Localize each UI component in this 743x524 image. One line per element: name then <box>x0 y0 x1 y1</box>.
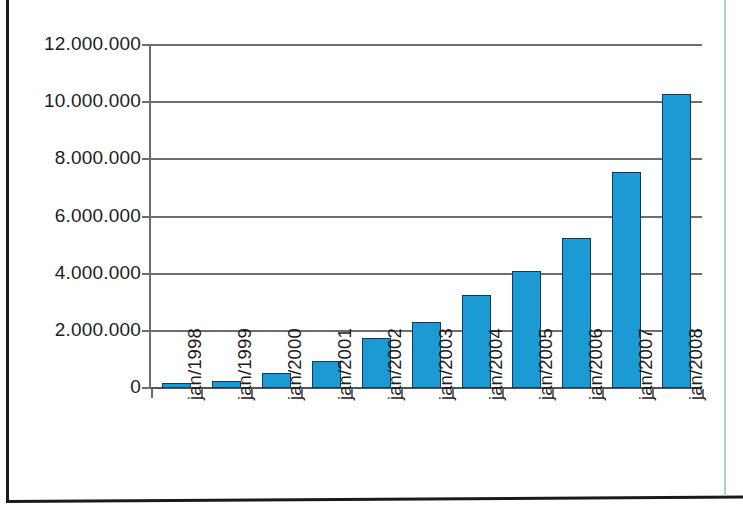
gridline <box>151 158 702 160</box>
y-axis-tick-label: 12.000.000 <box>0 33 141 55</box>
x-axis-tick <box>151 389 153 398</box>
y-axis-tick <box>142 216 151 218</box>
x-axis-tick-label: jan/2001 <box>334 328 356 400</box>
y-axis-tick-label: 8.000.000 <box>0 147 141 169</box>
x-axis-tick-label: jan/1998 <box>184 328 206 400</box>
y-axis-tick-label: 4.000.000 <box>0 262 141 284</box>
x-axis-tick-label: jan/2000 <box>284 328 306 400</box>
y-axis-tick-label: 6.000.000 <box>0 205 141 227</box>
y-axis-tick <box>142 101 151 103</box>
x-axis-tick-label: jan/2006 <box>585 328 607 400</box>
gridline <box>151 44 702 46</box>
gridline <box>151 101 702 103</box>
y-axis-tick-label: 0 <box>0 376 141 398</box>
scanned-page: 02.000.0004.000.0006.000.0008.000.00010.… <box>0 0 743 524</box>
y-axis-tick <box>142 158 151 160</box>
x-axis-tick-label: jan/2007 <box>635 328 657 400</box>
x-axis-tick-label: jan/2002 <box>384 328 406 400</box>
x-axis-tick-label: jan/2005 <box>535 328 557 400</box>
y-axis-tick <box>142 273 151 275</box>
y-axis-tick <box>142 330 151 332</box>
x-axis-tick-label: jan/1999 <box>234 328 256 400</box>
y-axis-tick <box>142 44 151 46</box>
y-axis-tick <box>142 387 151 389</box>
x-axis-tick-label: jan/2008 <box>685 328 707 400</box>
y-axis-tick-label: 10.000.000 <box>0 90 141 112</box>
x-axis-tick-label: jan/2004 <box>485 328 507 400</box>
y-axis-tick-label: 2.000.000 <box>0 319 141 341</box>
x-axis-tick-label: jan/2003 <box>435 328 457 400</box>
bar-chart: 02.000.0004.000.0006.000.0008.000.00010.… <box>0 0 743 524</box>
